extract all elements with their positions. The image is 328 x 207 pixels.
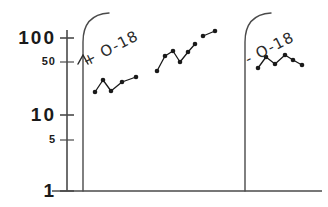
data-point-marker: [93, 90, 98, 95]
y-tick-label-50: 50: [42, 56, 56, 67]
y-tick-label-1: 1: [43, 181, 56, 200]
data-point-marker: [109, 89, 114, 94]
data-point-marker: [213, 29, 218, 34]
series-segment-3: [201, 29, 218, 39]
data-point-marker: [171, 49, 176, 54]
data-point-marker: [155, 69, 160, 74]
data-point-marker: [283, 53, 288, 58]
series-line: [157, 44, 195, 71]
data-point-marker: [134, 75, 139, 80]
data-point-marker: [101, 78, 106, 83]
series-segment-1: [93, 75, 139, 95]
y-axis: [60, 30, 74, 191]
data-point-marker: [273, 62, 278, 67]
data-point-marker: [186, 50, 191, 55]
series-segment-2: [155, 42, 198, 74]
data-point-marker: [178, 60, 183, 65]
y-tick-label-100: 100: [18, 28, 56, 47]
data-point-marker: [201, 34, 206, 39]
y-tick-label-5: 5: [49, 134, 56, 145]
data-point-marker: [193, 42, 198, 47]
data-point-marker: [256, 66, 261, 71]
y-tick-label-10: 10: [31, 105, 56, 124]
hand-drawn-log-chart: 100501051 + O-18- O-18: [0, 0, 328, 207]
data-point-marker: [300, 63, 305, 68]
data-point-marker: [291, 58, 296, 63]
data-point-marker: [163, 54, 168, 59]
data-point-marker: [120, 80, 125, 85]
